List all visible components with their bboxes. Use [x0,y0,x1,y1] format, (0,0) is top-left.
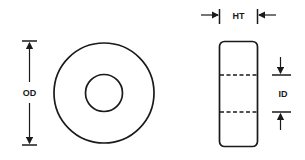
inner-circle [86,75,123,112]
od-label: OD [23,88,37,98]
ht-label: HT [233,11,245,21]
ht-dimension: HT [201,9,276,24]
front-view [54,43,154,143]
od-dimension: OD [22,41,37,145]
id-dimension: ID [272,57,291,130]
toroid-dimension-diagram: OD HT ID [0,0,305,160]
outer-circle [54,43,154,143]
side-view [220,42,258,147]
id-label: ID [279,89,289,99]
side-body [220,42,258,147]
